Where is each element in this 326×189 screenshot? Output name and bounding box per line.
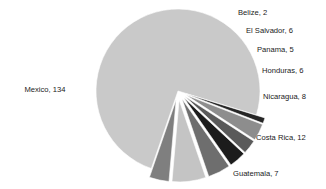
pie-label-costa-rica: Costa Rica, 12 (256, 133, 306, 142)
pie-label-guatemala: Guatemala, 7 (233, 169, 279, 178)
pie-label-panama: Panama, 5 (257, 45, 294, 54)
pie-label-nicaragua: Nicaragua, 8 (263, 92, 306, 101)
pie-label-honduras: Honduras, 6 (262, 66, 303, 75)
pie-label-belize: Belize, 2 (238, 8, 267, 17)
pie-label-el-salvador: El Salvador, 6 (246, 26, 293, 35)
pie-chart: Mexico, 134Belize, 2El Salvador, 6Panama… (0, 0, 326, 189)
pie-chart-canvas: Mexico, 134Belize, 2El Salvador, 6Panama… (0, 0, 326, 189)
pie-label-mexico: Mexico, 134 (25, 85, 66, 94)
